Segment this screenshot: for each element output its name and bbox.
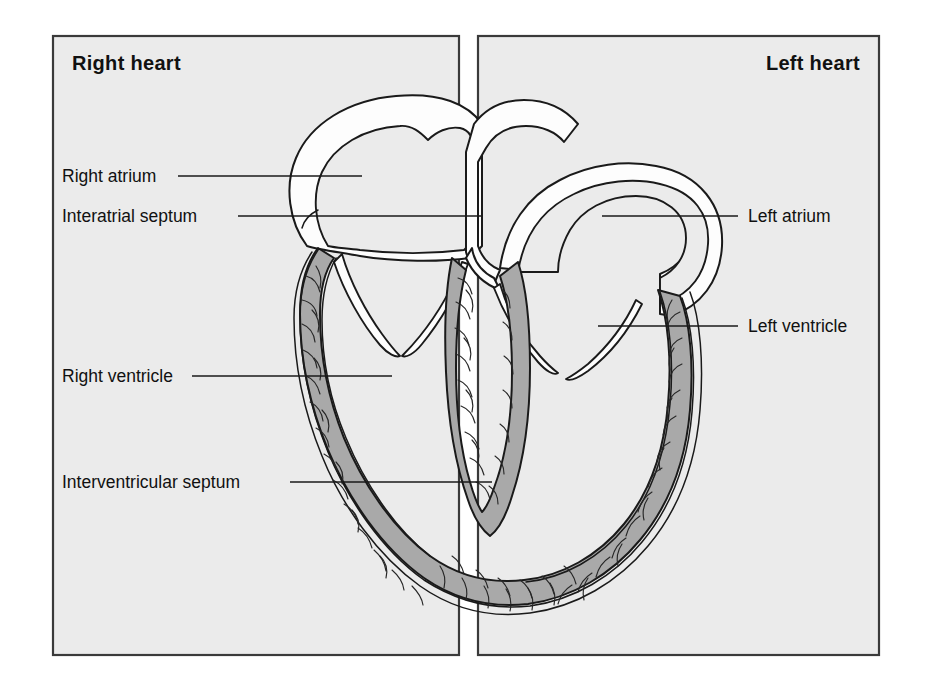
figure-page: Right heart Left heart (0, 0, 932, 691)
label-left-ventricle: Left ventricle (748, 316, 847, 336)
label-right-atrium: Right atrium (62, 166, 156, 186)
label-interventricular-septum: Interventricular septum (62, 472, 240, 492)
heart-anatomy-diagram: Right heart Left heart (0, 0, 932, 691)
panel-title-right-heart: Right heart (72, 52, 181, 74)
label-left-atrium: Left atrium (748, 206, 831, 226)
panel-title-left-heart: Left heart (766, 52, 860, 74)
label-interatrial-septum: Interatrial septum (62, 206, 197, 226)
label-right-ventricle: Right ventricle (62, 366, 173, 386)
